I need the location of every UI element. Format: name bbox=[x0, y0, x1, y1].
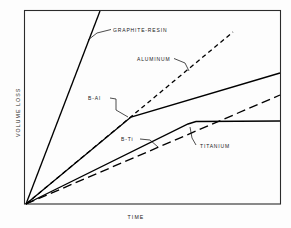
series-label-b-ti: B-Ti bbox=[121, 136, 133, 142]
series-label-aluminum: ALUMINUM bbox=[137, 56, 170, 62]
leader-line-b-al bbox=[110, 98, 128, 117]
series-line-graphite-resin bbox=[26, 11, 100, 204]
series-label-titanium: TITANIUM bbox=[200, 143, 230, 149]
series-line-b-al bbox=[26, 73, 280, 204]
chart-figure: GRAPHITE-RESIN ALUMINUM B-Al B-Ti TITANI… bbox=[0, 0, 291, 228]
series-label-graphite-resin: GRAPHITE-RESIN bbox=[113, 27, 167, 33]
x-axis-title: TIME bbox=[128, 214, 145, 220]
chart-canvas: GRAPHITE-RESIN ALUMINUM B-Al B-Ti TITANI… bbox=[0, 0, 291, 228]
leader-line-titanium bbox=[190, 127, 196, 145]
y-axis-title: VOLUME LOSS bbox=[15, 88, 21, 137]
series-label-b-al: B-Al bbox=[88, 95, 101, 101]
series-line-titanium bbox=[26, 121, 280, 204]
leader-line-aluminum bbox=[174, 59, 189, 72]
series-line-b-ti bbox=[26, 95, 280, 204]
